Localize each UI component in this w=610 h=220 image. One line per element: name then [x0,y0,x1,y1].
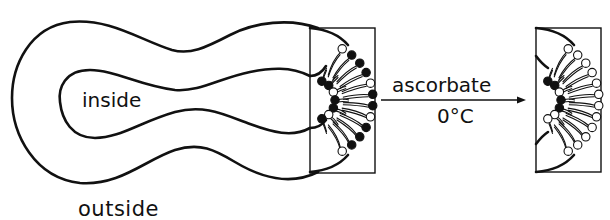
open-headgroup-icon [592,79,600,87]
filled-headgroup-icon [369,90,377,98]
lipid-tail [563,118,583,135]
lipid-tail [340,74,363,86]
open-headgroup-icon [592,113,600,121]
arrowhead-icon [517,97,526,104]
open-headgroup-icon [329,88,337,96]
open-headgroup-icon [582,59,590,67]
open-headgroup-icon [595,101,603,109]
open-headgroup-icon [582,133,590,141]
open-headgroup-icon [595,90,603,98]
lipid-tail [569,105,595,108]
open-headgroup-icon [544,115,552,123]
filled-headgroup-icon [369,101,377,109]
membrane-edge-top [536,28,574,45]
open-headgroup-icon [366,113,374,121]
lipid-tail [564,102,575,103]
filled-headgroup-icon [331,96,339,104]
lipid-tail [554,127,566,150]
vesicle-diagram: inside outside ascorbate 0°C [0,0,610,220]
bilayer-panel-before [310,28,377,173]
lipid-tail [569,97,595,100]
reagent-label: ascorbate [392,73,491,97]
filled-headgroup-icon [318,115,326,123]
lipid-tail [338,102,349,103]
open-headgroup-icon [564,45,572,53]
open-headgroup-icon [588,123,596,131]
filled-headgroup-icon [557,96,565,104]
open-headgroup-icon [588,68,596,76]
lipid-tail [566,74,589,86]
temperature-label: 0°C [437,104,474,128]
bilayer-panel-after [536,28,603,172]
membrane-edge-bottom [310,155,348,172]
open-headgroup-icon [555,88,563,96]
open-headgroup-icon [338,147,346,155]
filled-headgroup-icon [356,59,364,67]
lipid-tail [343,105,369,108]
outside-label: outside [78,197,159,220]
lipid-tail [328,127,340,150]
open-headgroup-icon [366,79,374,87]
open-headgroup-icon [574,51,582,59]
membrane-edge-bottom [536,155,574,172]
filled-headgroup-icon [356,133,364,141]
inside-label: inside [82,88,141,112]
open-headgroup-icon [574,141,582,149]
reaction-arrow-group: ascorbate 0°C [381,73,526,128]
lipid-tail [343,97,369,100]
lipid-tail [328,54,340,77]
membrane-edge-top [310,28,348,45]
open-headgroup-icon [338,45,346,53]
filled-headgroup-icon [348,51,356,59]
lipid-tail [337,118,357,135]
vesicle-outer-membrane [12,22,318,184]
filled-headgroup-icon [362,123,370,131]
open-headgroup-icon [564,147,572,155]
membrane-link-top [536,56,548,68]
membrane-link-bottom [536,132,548,144]
filled-headgroup-icon [348,141,356,149]
lipid-tail [554,54,566,77]
filled-headgroup-icon [362,68,370,76]
